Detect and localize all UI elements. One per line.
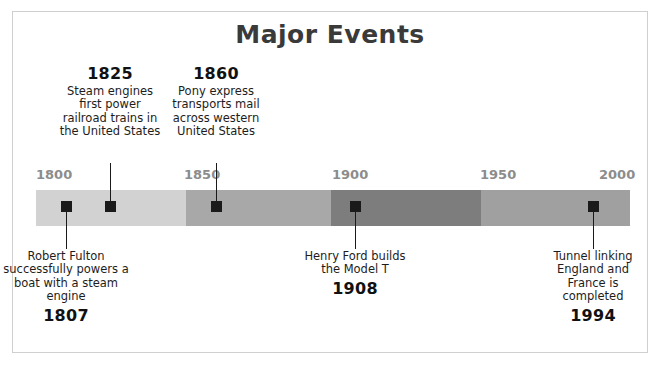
axis-tick-1800: 1800	[36, 167, 72, 182]
event-text-line: Pony express	[155, 85, 277, 98]
event-text-line: successfully powers a	[0, 263, 134, 276]
event-year-1860: 1860	[155, 64, 277, 83]
axis-tick-1850: 1850	[184, 167, 220, 182]
leader-line-1825	[110, 163, 111, 207]
timeline-infographic: Major Events 1800 1850 1900 1950 2000 18…	[0, 0, 660, 365]
page-title: Major Events	[0, 20, 660, 49]
event-text-line: transports mail	[155, 98, 277, 111]
event-text-1908: Henry Ford builds the Model T	[291, 250, 419, 277]
event-year-1994: 1994	[536, 306, 650, 325]
event-text-1860: Pony express transports mail across west…	[155, 85, 277, 139]
event-callout-1860: 1860 Pony express transports mail across…	[155, 64, 277, 139]
event-callout-1908: Henry Ford builds the Model T 1908	[291, 250, 419, 298]
timeline-bar	[36, 190, 630, 226]
event-text-line: France is	[536, 277, 650, 290]
event-text-line: Henry Ford builds	[291, 250, 419, 263]
axis-tick-1950: 1950	[480, 167, 516, 182]
event-callout-1994: Tunnel linking England and France is com…	[536, 250, 650, 325]
event-text-line: completed	[536, 290, 650, 303]
leader-line-1908	[355, 207, 356, 249]
timeline-segment-1950-2000	[481, 190, 630, 226]
event-text-line: boat with a steam	[0, 277, 134, 290]
leader-line-1994	[593, 207, 594, 249]
event-text-1994: Tunnel linking England and France is com…	[536, 250, 650, 304]
event-text-line: engine	[0, 290, 134, 303]
event-text-line: Robert Fulton	[0, 250, 134, 263]
event-text-line: the Model T	[291, 263, 419, 276]
event-text-1807: Robert Fulton successfully powers a boat…	[0, 250, 134, 304]
axis-tick-1900: 1900	[332, 167, 368, 182]
leader-line-1860	[216, 163, 217, 207]
leader-line-1807	[66, 207, 67, 249]
event-text-line: Tunnel linking	[536, 250, 650, 263]
event-text-line: across western	[155, 112, 277, 125]
event-year-1908: 1908	[291, 279, 419, 298]
event-text-line: United States	[155, 125, 277, 138]
event-year-1807: 1807	[0, 306, 134, 325]
event-callout-1807: Robert Fulton successfully powers a boat…	[0, 250, 134, 325]
timeline-segment-1850-1900	[186, 190, 331, 226]
axis-tick-2000: 2000	[599, 167, 635, 182]
event-text-line: England and	[536, 263, 650, 276]
